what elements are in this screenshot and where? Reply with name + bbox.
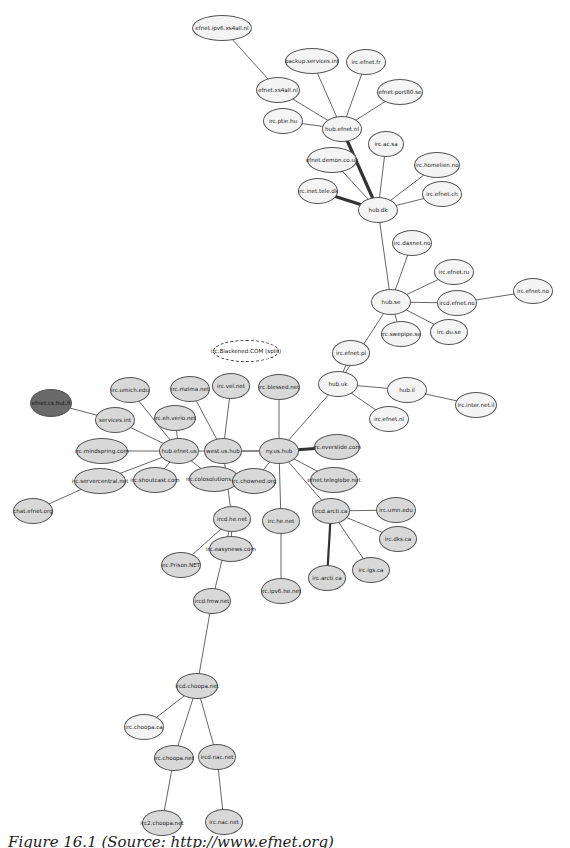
- node-label: backup.services.int: [285, 58, 339, 64]
- node-label: irc.ac.sa: [374, 141, 397, 147]
- node-label: hub.se: [382, 299, 401, 305]
- graph-node: services.int: [95, 407, 135, 433]
- node-label: irc.igs.ca: [359, 567, 384, 573]
- node-label: irc.Blackened.COM (split): [211, 348, 281, 354]
- graph-node: efnet.cs.hut.fi: [30, 389, 72, 417]
- node-label: irc.umn.edu: [379, 507, 412, 513]
- node-label: irc.choopa.ca: [125, 724, 162, 730]
- graph-node: irc.mindspring.com: [76, 438, 128, 464]
- graph-node: irc.vel.net: [212, 373, 250, 399]
- node-label: irc.mzima.net: [171, 386, 209, 392]
- graph-node: ircd.choopa.net: [176, 673, 218, 699]
- graph-node: ircd.he.net: [213, 506, 251, 532]
- graph-node: irc.eh.verio.net: [154, 405, 196, 431]
- graph-node: irc.ipv6.he.net: [261, 578, 301, 604]
- node-label: irc.nac.net: [209, 819, 239, 825]
- graph-node: irc.Blackened.COM (split): [213, 340, 279, 362]
- node-label: irc.swepipe.se: [381, 331, 421, 337]
- graph-node: irc.efnet.pl: [332, 340, 370, 366]
- node-label: ircd.fmw.net: [195, 598, 230, 604]
- node-label: irc.ptie.hu: [269, 118, 297, 124]
- graph-node: irc.dks.ca: [379, 526, 417, 552]
- graph-node: irc.Prison.NET: [161, 552, 201, 578]
- node-label: irc.choopa.net: [154, 755, 194, 761]
- node-label: irc.efnet.pl: [336, 350, 366, 356]
- node-label: efnet.xs4all.nl: [258, 87, 298, 93]
- node-label: irc.ipv6.he.net: [261, 588, 301, 594]
- graph-node: irc.nac.net: [205, 809, 243, 835]
- node-label: irc.efnet.ru: [439, 269, 470, 275]
- node-label: hub.efnet.us: [161, 448, 196, 454]
- graph-node: hub.efnet.nl: [322, 116, 362, 142]
- node-label: services.int: [99, 417, 131, 423]
- graph-node: irc.everslide.com: [314, 434, 360, 460]
- graph-node: irc.homelien.no: [414, 152, 460, 178]
- node-label: irc.umich.edu: [111, 387, 149, 393]
- node-label: ircd.arcti.ca: [315, 508, 348, 514]
- node-label: efnet.port80.se: [378, 89, 421, 95]
- node-label: irc.efnet.fr: [351, 59, 380, 65]
- graph-node: irc.umich.edu: [110, 377, 150, 403]
- graph-node: backup.services.int: [285, 48, 339, 74]
- node-label: irc.daxnet.no: [394, 240, 431, 246]
- graph-node: irc.servercentral.net: [74, 468, 126, 494]
- graph-node: irc.inter.net.il: [455, 392, 497, 418]
- node-label: ircd.efnet.no: [439, 300, 474, 306]
- node-label: ircd.choopa.net: [175, 683, 219, 689]
- graph-node: irc.umn.edu: [376, 497, 416, 523]
- node-label: irc.shoutcast.com: [130, 477, 180, 483]
- graph-node: irc.mzima.net: [170, 376, 210, 402]
- node-label: irc.dks.ca: [385, 536, 412, 542]
- node-label: chat.efnet.org: [13, 508, 53, 514]
- graph-node: irc.arcti.ca: [308, 565, 346, 591]
- graph-node: irc.efnet.no: [513, 278, 553, 304]
- node-label: irc.efnet.nl: [374, 416, 404, 422]
- node-label: hub.il: [399, 387, 415, 393]
- node-label: irc.blessed.net: [259, 384, 300, 390]
- graph-node: hub.efnet.us: [159, 438, 199, 464]
- node-label: irc.efnet.no: [517, 288, 549, 294]
- node-label: irc.servercentral.net: [72, 478, 129, 484]
- graph-node: west.us.hub: [204, 438, 242, 464]
- node-label: hub.dk: [368, 207, 387, 213]
- node-label: irc.everslide.com: [313, 444, 361, 450]
- graph-node: efnet.xs4all.nl: [256, 77, 300, 103]
- node-label: irc.Prison.NET: [162, 562, 201, 568]
- graph-node: irc.efnet.nl: [369, 406, 409, 432]
- graph-node: irc.ptie.hu: [263, 108, 303, 134]
- node-label: ircd.nac.net: [200, 754, 233, 760]
- node-label: irc.inter.net.il: [458, 402, 495, 408]
- graph-node: irc.inet.tele.dk: [298, 178, 338, 204]
- node-label: efnet.ipv6.xs4all.nl: [195, 25, 248, 31]
- graph-node: irc.ac.sa: [368, 131, 404, 157]
- node-label: hub.efnet.nl: [325, 126, 359, 132]
- node-label: irc.inet.tele.dk: [298, 188, 338, 194]
- node-label: irc.eh.verio.net: [154, 415, 196, 421]
- graph-node: hub.il: [387, 377, 427, 403]
- graph-node: ny.us.hub: [259, 438, 299, 464]
- graph-node: irc.chowned.org: [232, 468, 276, 494]
- node-label: hub.uk: [328, 381, 347, 387]
- node-label: irc.du.se: [437, 329, 461, 335]
- graph-node: irc.easynews.com: [209, 536, 253, 562]
- graph-node: hub.dk: [358, 197, 398, 223]
- node-label: irc.chowned.org: [232, 478, 277, 484]
- graph-node: hub.uk: [318, 371, 358, 397]
- graph-node: hub.se: [371, 289, 411, 315]
- graph-node: irc.blessed.net: [258, 374, 300, 400]
- graph-node: irc.he.net: [262, 508, 300, 534]
- graph-node: irc.igs.ca: [352, 557, 390, 583]
- graph-node: ircd.arcti.ca: [312, 498, 350, 524]
- graph-node: efnet.teleglobe.net: [310, 467, 358, 493]
- graph-node: irc.efnet.ru: [434, 259, 474, 285]
- graph-node: ircd.fmw.net: [193, 588, 231, 614]
- node-label: irc.he.net: [268, 518, 295, 524]
- node-label: irc.vel.net: [217, 383, 245, 389]
- graph-node: ircd.efnet.no: [437, 290, 477, 316]
- graph-node: irc.du.se: [430, 319, 468, 345]
- node-label: ny.us.hub: [266, 448, 293, 454]
- graph-node: irc.efnet.ch: [422, 181, 462, 207]
- node-label: ircd.he.net: [217, 516, 247, 522]
- graph-node: efnet.demon.co.uk: [307, 147, 357, 173]
- node-label: irc.efnet.ch: [426, 191, 458, 197]
